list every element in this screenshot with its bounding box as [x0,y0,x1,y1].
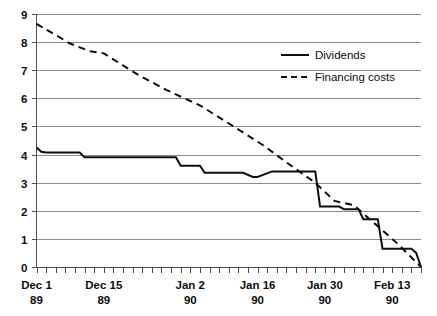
chart-legend: DividendsFinancing costs [281,49,395,83]
x-tick-label-year: 90 [386,294,399,306]
y-tick-label: 7 [21,65,27,77]
x-tick-label-year: 90 [184,294,197,306]
y-tick-label: 0 [21,262,27,274]
x-tick-label-date: Jan 16 [240,279,276,291]
x-tick-label-date: Dec 1 [21,279,52,291]
legend-label: Dividends [315,49,366,61]
y-tick-label: 9 [21,9,27,21]
y-axis-ticks-group [32,15,37,268]
x-tick-label-year: 90 [318,294,331,306]
x-tick-label-date: Dec 15 [85,279,123,291]
x-tick-label-date: Jan 30 [307,279,343,291]
y-axis-labels-group: 9876543210 [21,9,28,274]
y-tick-label: 8 [21,37,28,49]
y-tick-label: 4 [21,150,28,162]
line-chart: 9876543210 Dec 189Dec 1589Jan 290Jan 169… [0,0,437,316]
x-tick-label-date: Jan 2 [176,279,205,291]
y-tick-label: 6 [21,93,27,105]
series-line-dividends [37,148,422,267]
x-tick-label-year: 90 [251,294,264,306]
chart-container: 9876543210 Dec 189Dec 1589Jan 290Jan 169… [0,0,437,316]
y-tick-label: 1 [21,234,28,246]
y-tick-label: 5 [21,121,28,133]
legend-label: Financing costs [315,71,395,83]
y-tick-label: 2 [21,206,27,218]
y-tick-label: 3 [21,178,27,190]
x-tick-label-year: 89 [30,294,43,306]
x-tick-label-year: 89 [97,294,110,306]
x-tick-label-date: Feb 13 [374,279,410,291]
x-axis-labels-group: Dec 189Dec 1589Jan 290Jan 1690Jan 3090Fe… [21,279,410,306]
